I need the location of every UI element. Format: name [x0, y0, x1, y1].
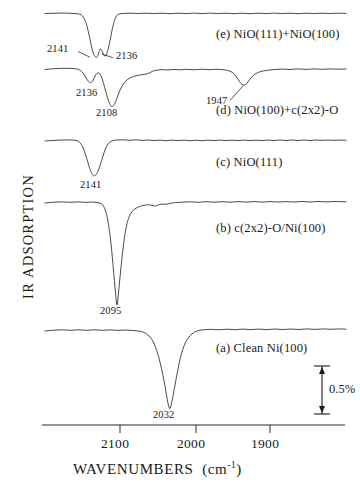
- ir-spectra-figure: IR ADSORPTION 2141 2136 2136 2108 1947 2…: [0, 0, 360, 487]
- peak-label-b-2095: 2095: [100, 306, 121, 317]
- peak-label-c-2141: 2141: [80, 180, 101, 191]
- trace-label-c: (c) NiO(111): [216, 156, 282, 169]
- y-axis-title: IR ADSORPTION: [20, 147, 37, 327]
- scalebar-arrow-down: [319, 406, 325, 413]
- leader-e-2141: [78, 52, 90, 58]
- x-axis-units-exponent: -1: [227, 460, 236, 470]
- x-tick-label-2000: 2000: [177, 437, 205, 451]
- trace-label-b: (b) c(2x2)-O/Ni(100): [216, 222, 326, 235]
- trace-b-curve: [45, 202, 346, 305]
- leader-d-1947: [230, 86, 243, 101]
- x-axis-title-main: WAVENUMBERS: [73, 461, 194, 477]
- trace-c-curve: [45, 140, 346, 176]
- leader-e-2136: [102, 54, 113, 58]
- x-axis-units-open: (cm: [202, 461, 227, 477]
- peak-label-d-2108: 2108: [96, 108, 117, 119]
- x-axis-title: WAVENUMBERS (cm-1): [73, 461, 242, 477]
- x-axis-units-close: ): [236, 461, 242, 477]
- peak-label-d-2136: 2136: [76, 88, 97, 99]
- trace-label-d: (d) NiO(100)+c(2x2)-O: [216, 104, 338, 117]
- trace-label-a: (a) Clean Ni(100): [216, 342, 307, 355]
- peak-label-e-2136: 2136: [116, 51, 137, 62]
- spectra-plot-area: [0, 0, 360, 487]
- peak-label-e-2141: 2141: [47, 44, 68, 55]
- scalebar-arrow-up: [319, 367, 325, 374]
- scalebar-label: 0.5%: [329, 383, 355, 396]
- x-tick-label-2100: 2100: [101, 437, 129, 451]
- x-tick-label-1900: 1900: [251, 437, 279, 451]
- trace-label-e: (e) NiO(111)+NiO(100): [216, 28, 339, 41]
- peak-label-a-2032: 2032: [153, 410, 174, 421]
